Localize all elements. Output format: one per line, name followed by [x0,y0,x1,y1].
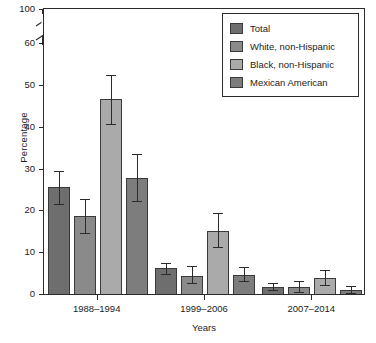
error-bar-line [137,154,138,201]
y-tick-10: 10 [0,252,43,253]
legend-swatch-icon [230,77,243,88]
x-tick-label: 1988–1994 [57,303,137,314]
y-tick-label: 100 [19,3,35,14]
x-tick-label: 1999–2006 [164,303,244,314]
y-tick-40: 40 [0,127,43,128]
x-tick-mark [204,295,205,300]
error-bar-cap-lower [346,293,356,294]
error-bar-cap-lower [268,290,278,291]
legend-swatch-icon [230,41,243,52]
error-bar-cap-lower [161,274,171,275]
legend-item: Black, non-Hispanic [230,55,352,73]
error-bar-cap-upper [187,266,197,267]
error-bar-cap-lower [294,292,304,293]
error-bar-cap-upper [54,171,64,172]
legend-item: White, non-Hispanic [230,37,352,55]
error-bar-cap-upper [80,199,90,200]
error-bar-line [325,270,326,285]
error-bar-line [85,199,86,233]
y-tick-20: 20 [0,210,43,211]
error-bar-line [218,213,219,247]
x-tick-label: 2007–2014 [271,303,351,314]
error-bar-cap-lower [213,247,223,248]
y-tick-100: 100 [0,9,43,10]
error-bar-line [192,266,193,283]
legend-label: Mexican American [250,77,328,88]
error-bar-line [59,171,60,204]
error-bar-cap-lower [106,124,116,125]
x-tick-mark [311,295,312,300]
y-tick-label: 30 [24,163,35,174]
error-bar-cap-upper [320,270,330,271]
error-bar-cap-upper [346,286,356,287]
error-bar-cap-upper [161,263,171,264]
y-tick-0: 0 [0,294,43,295]
x-tick-mark [97,295,98,300]
error-bar-cap-lower [80,233,90,234]
y-tick-label: 50 [24,79,35,90]
bar [100,99,122,295]
error-bar-cap-upper [132,154,142,155]
x-axis-title: Years [43,322,365,333]
y-tick-50: 50 [0,85,43,86]
y-tick-label: 10 [24,246,35,257]
error-bar-cap-upper [213,213,223,214]
error-bar-line [299,281,300,292]
error-bar-cap-lower [54,204,64,205]
error-bar-cap-upper [294,281,304,282]
error-bar-cap-lower [187,283,197,284]
legend-swatch-icon [230,59,243,70]
legend-swatch-icon [230,23,243,34]
error-bar-cap-upper [268,283,278,284]
y-tick-label: 0 [30,288,35,299]
legend-label: White, non-Hispanic [250,41,335,52]
error-bar-cap-lower [320,285,330,286]
bar-chart-figure: Percentage 6050403020100100 1988–1994199… [0,0,376,343]
error-bar-line [166,263,167,274]
error-bar-cap-lower [132,201,142,202]
legend-label: Total [250,23,270,34]
y-tick-30: 30 [0,169,43,170]
error-bar-cap-upper [106,75,116,76]
chart-legend: TotalWhite, non-HispanicBlack, non-Hispa… [222,13,359,97]
y-tick-label: 20 [24,204,35,215]
error-bar-cap-upper [239,267,249,268]
y-tick-label: 40 [24,121,35,132]
legend-label: Black, non-Hispanic [250,59,334,70]
error-bar-line [111,75,112,125]
error-bar-cap-lower [239,281,249,282]
error-bar-line [273,283,274,291]
legend-item: Mexican American [230,73,352,91]
error-bar-line [244,267,245,281]
error-bar-line [351,286,352,294]
legend-item: Total [230,19,352,37]
y-tick-60: 60 [0,43,43,44]
